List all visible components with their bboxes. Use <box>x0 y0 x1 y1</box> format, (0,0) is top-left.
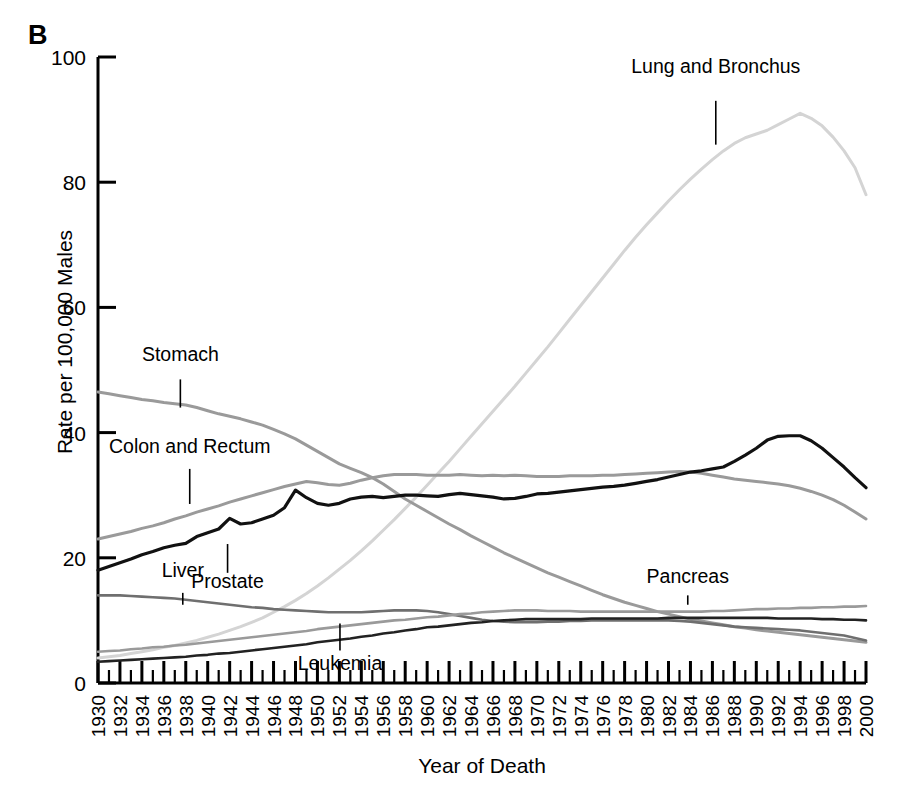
y-tick-label: 40 <box>63 422 86 445</box>
figure-panel: B Rate per 100,000 Males Year of Death 0… <box>0 0 905 801</box>
x-tick-label: 1962 <box>439 695 460 737</box>
x-tick-label: 1938 <box>176 695 197 737</box>
series-label-stomach: Stomach <box>142 343 219 365</box>
x-tick-label: 1950 <box>307 695 328 737</box>
x-tick-label: 1948 <box>285 695 306 737</box>
x-tick-label: 1940 <box>198 695 219 737</box>
x-tick-label: 1946 <box>264 695 285 737</box>
x-tick-label: 1994 <box>790 695 811 738</box>
x-tick-label: 1996 <box>812 695 833 737</box>
x-tick-label: 1964 <box>461 695 482 738</box>
y-tick-label: 60 <box>63 296 86 319</box>
x-tick-label: 1986 <box>702 695 723 737</box>
x-tick-label: 1958 <box>395 695 416 737</box>
x-axis-ticks <box>98 661 866 683</box>
series-label-lung-and-bronchus: Lung and Bronchus <box>631 55 800 77</box>
x-tick-label: 1978 <box>615 695 636 737</box>
y-tick-label: 20 <box>63 547 86 570</box>
x-tick-label: 1972 <box>549 695 570 737</box>
x-tick-label: 1970 <box>527 695 548 737</box>
x-tick-label: 1988 <box>724 695 745 737</box>
x-tick-label: 1960 <box>417 695 438 737</box>
series-label-leukemia: Leukemia <box>298 652 383 674</box>
x-tick-label: 1930 <box>88 695 109 737</box>
series-label-liver: Liver <box>162 559 205 581</box>
x-tick-label: 1932 <box>110 695 131 737</box>
series-line-colon-and-rectum <box>98 471 866 539</box>
x-tick-label: 1954 <box>351 695 372 738</box>
x-tick-label: 2000 <box>856 695 877 737</box>
series-line-leukemia <box>98 618 866 662</box>
x-tick-label: 1974 <box>571 695 592 738</box>
y-tick-label: 0 <box>74 672 86 695</box>
x-tick-label: 1998 <box>834 695 855 737</box>
x-tick-label: 1976 <box>593 695 614 737</box>
x-axis-tick-labels: 1930193219341936193819401942194419461948… <box>88 695 877 738</box>
x-tick-label: 1968 <box>505 695 526 737</box>
x-tick-label: 1990 <box>746 695 767 737</box>
x-tick-label: 1956 <box>373 695 394 737</box>
x-tick-label: 1984 <box>680 695 701 738</box>
x-tick-label: 1942 <box>220 695 241 737</box>
series-label-colon-and-rectum: Colon and Rectum <box>109 435 271 457</box>
x-tick-label: 1980 <box>637 695 658 737</box>
x-tick-label: 1936 <box>154 695 175 737</box>
x-tick-label: 1944 <box>242 695 263 738</box>
series-annotations-group: Lung and BronchusStomachColon and Rectum… <box>109 55 801 675</box>
line-chart: 020406080100 193019321934193619381940194… <box>0 0 905 801</box>
x-tick-label: 1952 <box>329 695 350 737</box>
x-tick-label: 1992 <box>768 695 789 737</box>
x-tick-label: 1982 <box>659 695 680 737</box>
x-tick-label: 1934 <box>132 695 153 738</box>
y-tick-label: 80 <box>63 171 86 194</box>
series-line-stomach <box>98 392 866 642</box>
x-tick-label: 1966 <box>483 695 504 737</box>
series-label-pancreas: Pancreas <box>647 565 730 587</box>
y-axis-ticks: 020406080100 <box>51 46 116 695</box>
y-tick-label: 100 <box>51 46 86 69</box>
